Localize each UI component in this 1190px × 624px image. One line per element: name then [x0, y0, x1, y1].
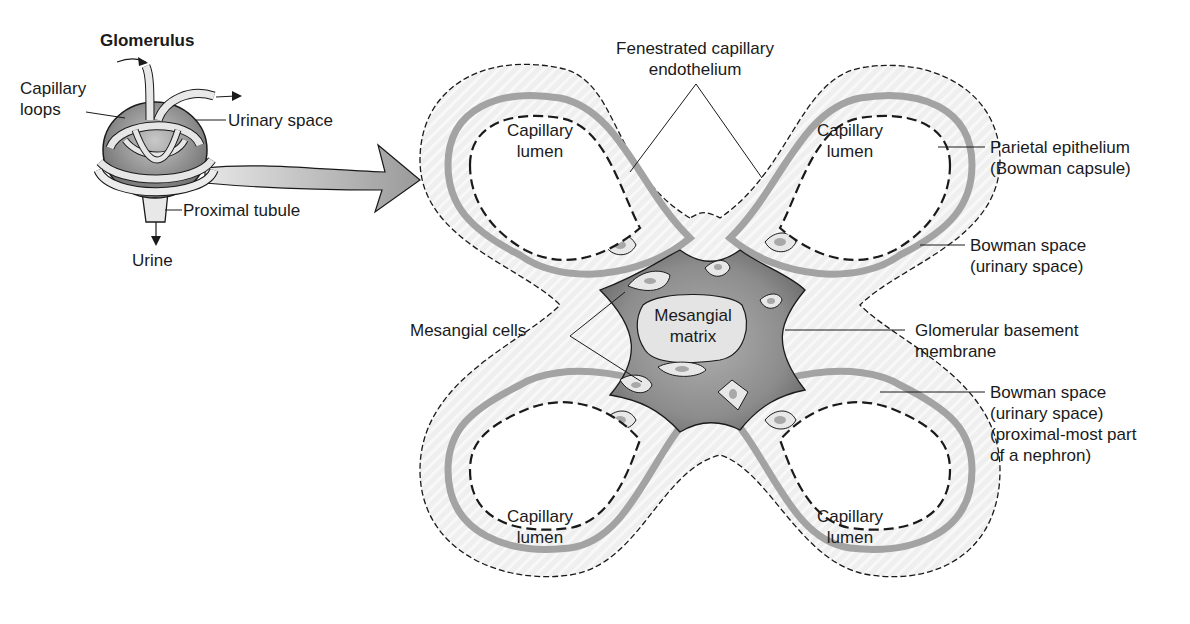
- urinary-space-label: Urinary space: [228, 110, 333, 131]
- diagram-graphics: [0, 0, 1190, 624]
- glomerular-basement-membrane-label: Glomerular basement membrane: [915, 320, 1078, 362]
- fenestrated-endothelium-label: Fenestrated capillary endothelium: [590, 38, 800, 80]
- capillary-loops-label: Capillary loops: [20, 78, 86, 120]
- bowman-space-label-1: Bowman space (urinary space): [970, 235, 1086, 277]
- bowman-space-label-2: Bowman space (urinary space) (proximal-m…: [990, 382, 1136, 466]
- parietal-epithelium-label: Parietal epithelium (Bowman capsule): [990, 137, 1131, 179]
- capillary-lumen-label-tr: Capillary lumen: [800, 120, 900, 162]
- glomerulus-title: Glomerulus: [100, 30, 194, 51]
- mesangial-matrix-label: Mesangial matrix: [643, 305, 743, 347]
- urine-label: Urine: [132, 250, 173, 271]
- capillary-lumen-label-tl: Capillary lumen: [490, 120, 590, 162]
- capillary-lumen-label-br: Capillary lumen: [800, 506, 900, 548]
- capillary-lumen-label-bl: Capillary lumen: [490, 506, 590, 548]
- glomerulus-diagram: Glomerulus Capillary loops Urinary space…: [0, 0, 1190, 624]
- proximal-tubule-label: Proximal tubule: [183, 200, 300, 221]
- mesangial-cells-label: Mesangial cells: [410, 320, 526, 341]
